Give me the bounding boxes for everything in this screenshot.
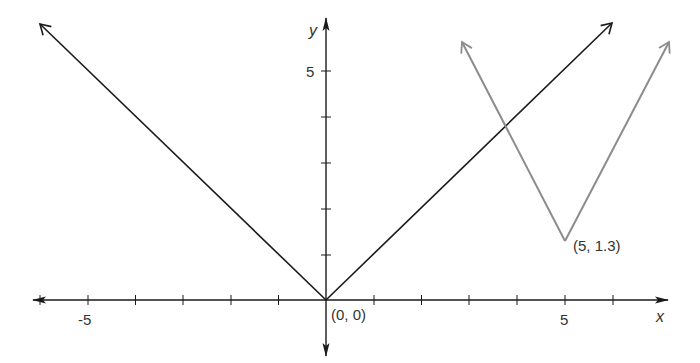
x-tick-label-neg5: -5 [78, 311, 91, 328]
x-axis-label: x [655, 308, 665, 325]
y-axis-label: y [308, 22, 318, 39]
origin-label: (0, 0) [331, 306, 366, 323]
vertex-label: (5, 1.3) [573, 237, 621, 254]
x-tick-label-5: 5 [560, 311, 568, 328]
y-tick-label-5: 5 [306, 63, 314, 80]
coordinate-graph: -5 5 x 5 y (0, 0) (5, 1.3) [0, 0, 700, 363]
y-axis: 5 y [306, 18, 331, 356]
curve-shifted-absolute-value [462, 42, 669, 241]
